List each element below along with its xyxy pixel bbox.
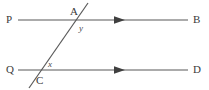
point-label-p: P: [6, 14, 12, 25]
point-label-d: D: [193, 64, 201, 75]
arrow-marker-bottom: [114, 66, 125, 74]
point-label-q: Q: [6, 64, 14, 75]
arrow-marker-top: [114, 16, 125, 24]
point-label-c: C: [36, 75, 43, 86]
geometry-diagram: P B Q D A C y x: [0, 0, 209, 90]
angle-label-y: y: [79, 24, 83, 33]
angle-label-x: x: [48, 60, 52, 69]
point-label-a: A: [70, 6, 78, 17]
point-label-b: B: [193, 14, 200, 25]
diagram-canvas: [0, 0, 209, 90]
